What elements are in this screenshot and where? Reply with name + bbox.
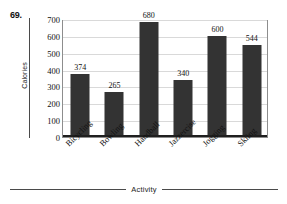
bar-value-label: 544 <box>246 35 258 43</box>
bar-slot: 544 <box>235 20 269 137</box>
bar-value-label: 340 <box>177 70 189 78</box>
x-axis-category-labels: BicyclingBowlingHandballJazzerciseJoggin… <box>62 140 268 180</box>
bar-value-label: 265 <box>108 82 120 90</box>
y-tick-label: 700 <box>36 16 60 25</box>
bar-slot: 600 <box>200 20 234 137</box>
bar-slot: 265 <box>97 20 131 137</box>
bar-value-label: 374 <box>74 64 86 72</box>
y-axis-title-rule <box>29 18 30 138</box>
bar-slot: 340 <box>166 20 200 137</box>
bar <box>242 45 261 137</box>
bar <box>208 36 227 137</box>
y-tick-label: 100 <box>36 117 60 126</box>
y-axis-title: Calories <box>21 46 28 106</box>
y-tick-label: 500 <box>36 50 60 59</box>
bar-value-label: 680 <box>143 12 155 20</box>
bar-chart-figure: 69. Calories 7006005004003002001000 3742… <box>0 0 287 204</box>
bar-slot: 680 <box>132 20 166 137</box>
bar-slot: 374 <box>63 20 97 137</box>
y-tick-label: 300 <box>36 83 60 92</box>
x-axis-rule-right <box>162 189 278 190</box>
y-tick-label: 400 <box>36 67 60 76</box>
x-axis-title-row: Activity <box>10 183 278 195</box>
x-axis-baseline <box>63 135 267 137</box>
y-tick-label: 200 <box>36 100 60 109</box>
y-tick-label: 0 <box>36 134 60 143</box>
x-axis-rule-left <box>10 189 126 190</box>
bar-series: 374265680340600544 <box>63 20 267 137</box>
y-tick-label: 600 <box>36 33 60 42</box>
x-axis-title: Activity <box>126 185 161 194</box>
bar-value-label: 600 <box>211 26 223 34</box>
y-axis-tick-labels: 7006005004003002001000 <box>36 16 60 140</box>
plot-area: 374265680340600544 <box>62 20 268 138</box>
problem-number: 69. <box>10 10 22 20</box>
